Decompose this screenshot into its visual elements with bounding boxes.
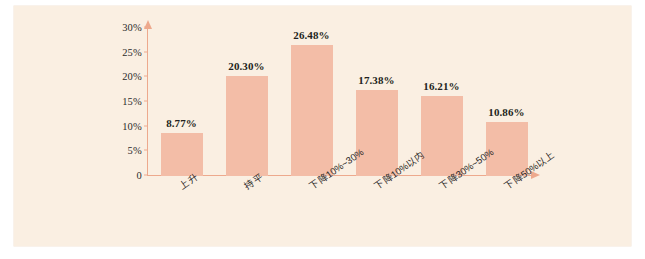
- bar-group[interactable]: 16.21%: [421, 28, 463, 176]
- y-axis-tick-label: 10%: [24, 120, 142, 131]
- bar-value-label: 20.30%: [228, 60, 264, 72]
- y-axis-tick-label: 25%: [24, 46, 142, 57]
- bar-chart-figure: 05%10%15%20%25%30% 8.77%20.30%26.48%17.3…: [14, 6, 631, 246]
- bar-value-label: 26.48%: [293, 29, 329, 41]
- bar-value-label: 8.77%: [166, 117, 197, 129]
- y-axis-tick-labels: 05%10%15%20%25%30%: [14, 6, 142, 246]
- y-axis-tick-label: 30%: [24, 22, 142, 33]
- bar-group[interactable]: 20.30%: [226, 28, 268, 176]
- bar[interactable]: [421, 96, 463, 176]
- y-axis-tick-label: 15%: [24, 96, 142, 107]
- bar-group[interactable]: 8.77%: [161, 28, 203, 176]
- y-axis-tick-label: 5%: [24, 145, 142, 156]
- bar-value-label: 10.86%: [488, 106, 524, 118]
- y-axis-tick-label: 20%: [24, 71, 142, 82]
- bar-value-label: 16.21%: [423, 80, 459, 92]
- y-axis-tick-label: 0: [24, 170, 142, 181]
- bar-value-label: 17.38%: [358, 74, 394, 86]
- bar[interactable]: [226, 76, 268, 176]
- bar-group[interactable]: 26.48%: [291, 28, 333, 176]
- bar[interactable]: [291, 45, 333, 176]
- scanned-page: 05%10%15%20%25%30% 8.77%20.30%26.48%17.3…: [14, 6, 631, 246]
- bar[interactable]: [356, 90, 398, 176]
- bar[interactable]: [161, 133, 203, 176]
